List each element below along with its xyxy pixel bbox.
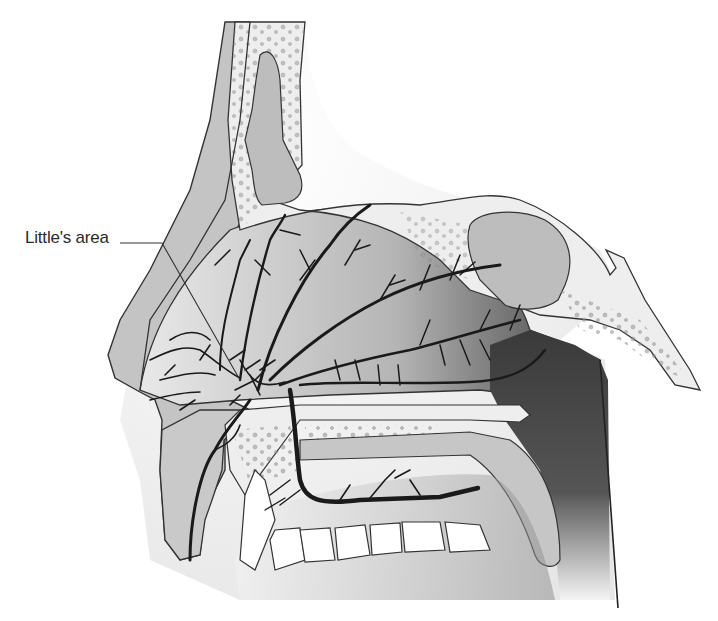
littles-area-label: Little's area: [25, 228, 109, 248]
nasal-anatomy-illustration: [0, 0, 718, 621]
